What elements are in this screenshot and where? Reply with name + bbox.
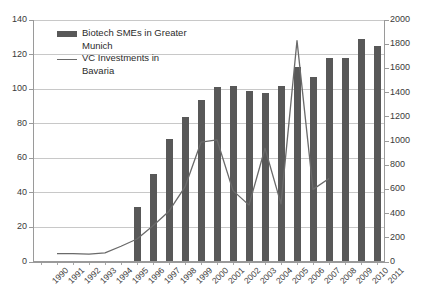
right-axis-tick-label: 2000	[390, 15, 424, 24]
chart-container: 020406080100120140 020040060080010001200…	[0, 0, 432, 305]
legend-bar-swatch-icon	[57, 31, 77, 37]
right-axis-tick-mark	[385, 141, 389, 142]
right-axis-tick-label: 1400	[390, 88, 424, 97]
right-axis-tick-mark	[385, 20, 389, 21]
right-axis-tick-label: 400	[390, 209, 424, 218]
legend-label-vc-investments: VC Investments in Bavaria	[82, 52, 159, 77]
legend-label-line1: Biotech SMEs in Greater	[82, 27, 187, 38]
right-axis-tick-mark	[385, 68, 389, 69]
right-axis-tick-mark	[385, 237, 389, 238]
left-axis-tick-label: 120	[0, 50, 27, 59]
left-axis-tick-label: 80	[0, 119, 27, 128]
right-axis-tick-label: 1800	[390, 39, 424, 48]
legend-item-biotech-smes: Biotech SMEs in Greater Munich	[57, 27, 187, 52]
legend-item-vc-investments: VC Investments in Bavaria	[57, 52, 187, 77]
left-axis-tick-label: 0	[0, 257, 27, 266]
right-axis-line	[384, 20, 385, 262]
right-axis-tick-mark	[385, 92, 389, 93]
right-axis-tick-label: 1200	[390, 112, 424, 121]
legend-label-line1: VC Investments in	[82, 52, 159, 63]
right-axis-tick-mark	[385, 213, 389, 214]
legend-label-line2: Munich	[82, 40, 187, 53]
left-axis-tick-label: 40	[0, 188, 27, 197]
left-axis-tick-label: 140	[0, 15, 27, 24]
chart-legend: Biotech SMEs in Greater Munich VC Invest…	[57, 27, 187, 77]
left-axis-tick-label: 100	[0, 84, 27, 93]
right-axis-tick-mark	[385, 189, 389, 190]
left-axis-tick-label: 60	[0, 153, 27, 162]
right-axis-tick-mark	[385, 165, 389, 166]
legend-label-line2: Bavaria	[82, 65, 159, 78]
bottom-axis-line	[33, 261, 385, 262]
right-axis-tick-label: 600	[390, 184, 424, 193]
right-axis-tick-label: 0	[390, 257, 424, 266]
legend-label-biotech-smes: Biotech SMEs in Greater Munich	[82, 27, 187, 52]
legend-line-swatch-icon	[57, 56, 77, 60]
right-axis-tick-mark	[385, 44, 389, 45]
right-axis-tick-label: 1000	[390, 136, 424, 145]
right-axis-tick-label: 800	[390, 160, 424, 169]
x-axis-tick-label: 2011	[386, 266, 405, 285]
right-axis-tick-label: 1600	[390, 63, 424, 72]
right-axis-tick-mark	[385, 116, 389, 117]
right-axis-tick-mark	[385, 262, 389, 263]
right-axis-tick-label: 200	[390, 233, 424, 242]
left-axis-tick-label: 20	[0, 222, 27, 231]
left-axis-line	[33, 20, 34, 262]
